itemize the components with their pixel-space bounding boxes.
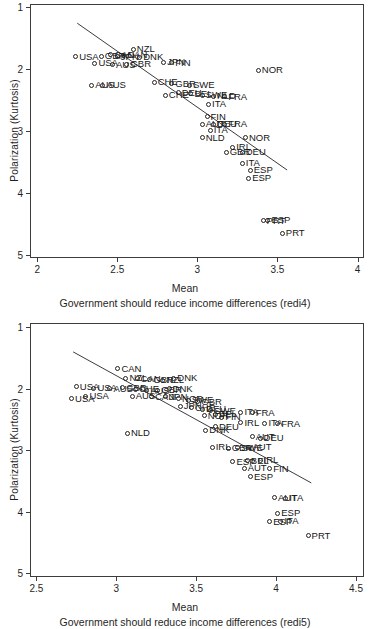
point-label: ESP: [252, 173, 271, 183]
y-tick: [26, 450, 30, 451]
x-tick-label: 3: [195, 264, 201, 275]
x-tick: [197, 258, 198, 262]
point-label: FRA: [281, 419, 300, 429]
y-tick: [26, 573, 30, 574]
data-point: [210, 445, 215, 450]
data-point: [280, 231, 285, 236]
y-tick-label: 1: [17, 322, 23, 333]
x-tick: [117, 258, 118, 262]
y-tick-label: 3: [17, 445, 23, 456]
plot-area: [30, 4, 364, 258]
point-label: PRT: [312, 531, 331, 541]
data-point: [226, 446, 231, 451]
data-point: [161, 60, 166, 65]
data-point: [256, 68, 261, 73]
data-point: [203, 428, 208, 433]
y-tick-label: 2: [17, 383, 23, 394]
point-label: IRL: [244, 418, 259, 428]
point-label: AUT: [252, 442, 271, 452]
y-tick: [26, 389, 30, 390]
point-label: ITA: [289, 493, 303, 503]
y-tick: [26, 69, 30, 70]
data-point: [131, 47, 136, 52]
data-point: [250, 434, 255, 439]
y-tick-label: 5: [17, 249, 23, 260]
point-label: FIN: [175, 58, 190, 68]
data-point: [258, 436, 263, 441]
y-tick-label: 4: [17, 506, 23, 517]
point-label: NLD: [206, 133, 225, 143]
y-tick-label: 1: [17, 2, 23, 13]
data-point: [278, 519, 283, 524]
point-label: FIN: [273, 464, 288, 474]
data-point: [130, 394, 135, 399]
data-point: [283, 496, 288, 501]
y-tick: [26, 193, 30, 194]
data-point: [240, 150, 245, 155]
y-tick-label: 3: [17, 126, 23, 137]
x-tick: [196, 577, 197, 581]
data-point: [224, 150, 229, 155]
data-point: [306, 533, 311, 538]
x-tick: [116, 577, 117, 581]
point-label: PRT: [286, 228, 305, 238]
y-tick-label: 5: [17, 568, 23, 579]
data-point: [99, 54, 104, 59]
x-tick-label: 4.5: [349, 583, 363, 594]
point-label: ITA: [212, 99, 226, 109]
point-label: USA: [79, 52, 99, 62]
data-point: [261, 218, 266, 223]
point-label: FRA: [228, 92, 247, 102]
point-label: PRT: [267, 216, 286, 226]
y-tick-label: 2: [17, 64, 23, 75]
point-label: DEU: [246, 147, 266, 157]
x-tick-label: 2: [34, 264, 40, 275]
point-label: ESP: [254, 472, 273, 482]
data-point: [176, 90, 181, 95]
data-point: [206, 102, 211, 107]
data-point: [160, 378, 165, 383]
y-tick: [26, 255, 30, 256]
y-tick: [26, 131, 30, 132]
x-tick: [358, 258, 359, 262]
point-label: AUS: [116, 60, 136, 70]
x-axis-title: Mean: [0, 282, 370, 294]
x-tick: [37, 258, 38, 262]
data-point: [163, 93, 168, 98]
x-tick: [356, 577, 357, 581]
y-tick-label: 4: [17, 187, 23, 198]
data-point: [178, 404, 183, 409]
point-label: DEU: [219, 422, 239, 432]
data-point: [200, 407, 205, 412]
x-tick-label: 4: [273, 583, 279, 594]
data-point: [246, 176, 251, 181]
data-point: [275, 511, 280, 516]
x-tick-label: 2.5: [110, 264, 124, 275]
data-point: [200, 122, 205, 127]
point-label: DNK: [177, 373, 197, 383]
x-axis-subtitle: Government should reduce income differen…: [0, 616, 370, 628]
two-panel-scatter-figure: Polarization (Kurtosis) Mean Government …: [0, 0, 370, 629]
y-tick: [26, 7, 30, 8]
point-label: USA: [89, 391, 109, 401]
data-point: [240, 161, 245, 166]
data-point: [137, 55, 142, 60]
point-label: AUS: [106, 80, 126, 90]
data-point: [250, 410, 255, 415]
point-label: FRA: [228, 119, 247, 129]
point-label: ITA: [284, 516, 298, 526]
data-point: [89, 83, 94, 88]
x-tick-label: 3.5: [271, 264, 285, 275]
point-label: NOR: [249, 133, 270, 143]
scatter-chart-redi5: Polarization (Kurtosis) Mean Government …: [0, 315, 370, 629]
x-tick: [277, 258, 278, 262]
data-point: [200, 93, 205, 98]
x-axis-subtitle: Government should reduce income differen…: [0, 297, 370, 309]
data-point: [125, 431, 130, 436]
data-point: [219, 415, 224, 420]
data-point: [152, 80, 157, 85]
x-tick-label: 3: [114, 583, 120, 594]
point-label: NLD: [131, 428, 150, 438]
x-axis-title: Mean: [0, 601, 370, 613]
data-point: [242, 466, 247, 471]
